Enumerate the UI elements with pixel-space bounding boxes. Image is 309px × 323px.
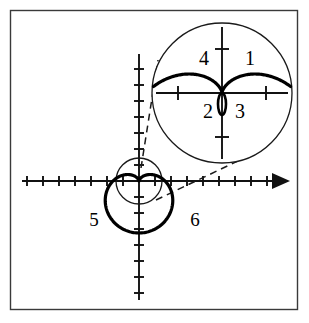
label-4: 4 — [199, 47, 209, 69]
figure-container: 142356 — [0, 0, 309, 323]
label-3: 3 — [235, 100, 245, 122]
label-6: 6 — [190, 209, 200, 230]
figure-svg: 142356 — [0, 0, 309, 323]
magnifier-inset-group — [152, 23, 292, 163]
label-5: 5 — [89, 209, 99, 230]
label-2: 2 — [203, 100, 213, 122]
label-1: 1 — [245, 47, 255, 69]
